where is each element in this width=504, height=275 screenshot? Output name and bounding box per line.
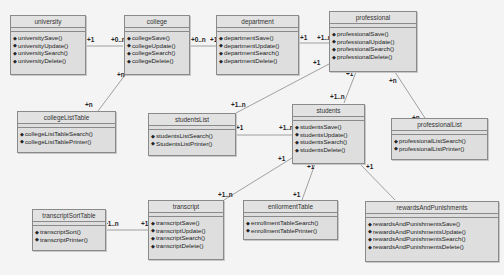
class-transcriptsorttable[interactable]: transcriptSortTable ◆transcriptSort() ◆t… [32,209,106,251]
operation: ◆studentsSave() [295,123,364,131]
class-name: collegeListTable [18,112,115,124]
public-method-icon: ◆ [368,245,372,249]
operation: ◆collegeDelete() [127,57,189,65]
class-name: enllormentTable [244,201,337,213]
public-method-icon: ◆ [151,141,155,145]
public-method-icon: ◆ [394,146,398,150]
operations-compartment: ◆enrollmentTableSearch() ◆enrollmentTabl… [244,217,337,234]
operation: ◆rewardsAndPunishmentsDelete() [368,243,498,251]
link-professional-professionallist [395,72,425,118]
class-name: professional [330,12,416,24]
public-method-icon: ◆ [35,230,39,234]
public-method-icon: ◆ [127,51,131,55]
public-method-icon: ◆ [219,36,223,40]
public-method-icon: ◆ [13,51,17,55]
operation: ◆collegeListTableSearch() [20,130,115,138]
public-method-icon: ◆ [295,132,299,136]
public-method-icon: ◆ [394,139,398,143]
public-method-icon: ◆ [127,43,131,47]
public-method-icon: ◆ [151,228,155,232]
public-method-icon: ◆ [332,39,336,43]
operation: ◆collegeListTablePrinter() [20,138,115,146]
public-method-icon: ◆ [368,222,372,226]
operations-compartment: ◆professionalListSearch() ◆professionalL… [392,135,487,152]
public-method-icon: ◆ [295,148,299,152]
public-method-icon: ◆ [20,139,24,143]
operation: ◆departmentUpdate() [219,42,298,50]
class-name: rewardsAndPunishments [366,202,498,214]
class-college[interactable]: college ◆collegeSave() ◆collegeUpdate() … [124,15,190,75]
class-collegelisttable[interactable]: collegeListTable ◆collegeListTableSearch… [17,111,116,153]
public-method-icon: ◆ [13,43,17,47]
operation: ◆universitySearch() [13,49,85,57]
class-professional[interactable]: professional ◆professionalSave() ◆profes… [329,11,417,72]
operation: ◆departmentDelete() [219,57,298,65]
public-method-icon: ◆ [332,32,336,36]
operations-compartment: ◆departmentSave() ◆departmentUpdate() ◆d… [217,32,298,64]
operations-compartment: ◆collegeSave() ◆collegeUpdate() ◆college… [125,32,189,64]
class-name: transcriptSortTable [33,210,105,222]
mult-college-department-from: +0..n [191,36,206,43]
operations-compartment: ◆studentsSave() ◆studentsUpdate() ◆stude… [293,121,364,153]
mult-students-rewards-from: +1 [366,163,373,170]
mult-professional-students-to: +1..n [330,93,345,100]
operation: ◆transcriptSort() [35,228,105,236]
operation: ◆universityDelete() [13,57,85,65]
operation: ◆departmentSave() [219,34,298,42]
mult-students-transcript-to: +1..n [218,191,233,198]
class-studentslist[interactable]: studentsList ◆studentsListSearch() ◆Stud… [148,113,236,156]
public-method-icon: ◆ [20,132,24,136]
public-method-icon: ◆ [219,43,223,47]
public-method-icon: ◆ [332,55,336,59]
operation: ◆departmentSearch() [219,49,298,57]
operation: ◆studentsDelete() [295,146,364,154]
operation: ◆studentsUpdate() [295,131,364,139]
public-method-icon: ◆ [151,236,155,240]
class-students[interactable]: students ◆studentsSave() ◆studentsUpdate… [292,104,365,164]
operation: ◆rewardsAndPunishmentsUpdate() [368,228,498,236]
operation: ◆enrollmentTableSearch() [246,219,337,227]
operation: ◆transcriptDelete() [151,242,223,250]
operation: ◆professionalListPrinter() [394,145,487,153]
public-method-icon: ◆ [332,47,336,51]
public-method-icon: ◆ [295,140,299,144]
public-method-icon: ◆ [13,36,17,40]
class-enllormenttable[interactable]: enllormentTable ◆enrollmentTableSearch()… [243,200,338,240]
operations-compartment: ◆collegeListTableSearch() ◆collegeListTa… [18,128,115,145]
operation: ◆transcriptPrinter() [35,236,105,244]
public-method-icon: ◆ [246,228,250,232]
operation: ◆collegeSave() [127,34,189,42]
public-method-icon: ◆ [13,59,17,63]
operation: ◆rewardsAndPunishmentsSearch() [368,235,498,243]
public-method-icon: ◆ [151,134,155,138]
class-university[interactable]: university ◆universitySave() ◆university… [10,15,86,75]
operation: ◆collegeUpdate() [127,42,189,50]
mult-college-collegelisttable-to: +n [85,101,93,108]
public-method-icon: ◆ [368,229,372,233]
operation: ◆collegeSearch() [127,49,189,57]
operation: ◆professionalSave() [332,30,416,38]
class-name: college [125,16,189,28]
class-name: students [293,105,364,117]
operation: ◆professionalListSearch() [394,137,487,145]
link-college-collegelisttable [98,75,125,111]
public-method-icon: ◆ [127,59,131,63]
mult-professional-professionallist-from: +n [389,77,397,84]
operation: ◆universityUpdate() [13,42,85,50]
mult-students-transcript-from: +1 [278,155,285,162]
mult-students-enllormenttable-from: +1 [307,163,314,170]
class-department[interactable]: department ◆departmentSave() ◆department… [216,15,299,75]
operation: ◆professionalSearch() [332,45,416,53]
operations-compartment: ◆universitySave() ◆universityUpdate() ◆u… [11,32,85,64]
public-method-icon: ◆ [35,237,39,241]
operations-compartment: ◆rewardsAndPunishmentsSave() ◆rewardsAnd… [366,218,498,250]
class-rewardsandpunishments[interactable]: rewardsAndPunishments ◆rewardsAndPunishm… [365,201,499,262]
operation: ◆transcriptSave() [151,219,223,227]
public-method-icon: ◆ [219,51,223,55]
class-name: department [217,16,298,28]
operation: ◆studentsSearch() [295,138,364,146]
mult-university-college-from: +1 [87,36,94,43]
class-transcript[interactable]: transcript ◆transcriptSave() ◆transcript… [148,200,224,260]
operation: ◆transcriptUpdate() [151,227,223,235]
class-professionallist[interactable]: professionalList ◆professionalListSearch… [391,118,488,160]
